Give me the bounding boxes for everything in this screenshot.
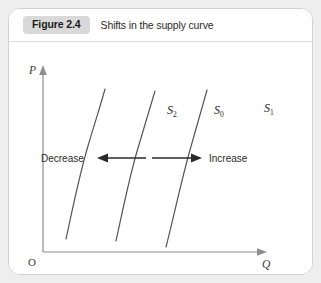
figure-number-badge: Figure 2.4: [23, 16, 90, 34]
curve-label-s0: S0: [214, 103, 224, 119]
horizontal-axis: [43, 248, 267, 256]
axis-label-quantity: Q: [262, 258, 271, 270]
figure-card: Figure 2.4 Shifts in the supply curve P …: [8, 8, 313, 275]
increase-label: Increase: [209, 153, 248, 164]
curve-label-s0-sub: 0: [220, 110, 224, 119]
decrease-arrow: [97, 154, 146, 163]
increase-arrow: [152, 154, 202, 163]
curve-label-s1-sub: 1: [270, 108, 274, 117]
origin-label: O: [28, 256, 36, 268]
supply-curve-chart: P Q O S2 S0 S1: [9, 42, 313, 275]
decrease-label: Decrease: [41, 153, 84, 164]
curve-label-s2: S2: [167, 103, 177, 119]
curve-label-s1: S1: [264, 101, 274, 117]
figure-header: Figure 2.4 Shifts in the supply curve: [9, 9, 312, 42]
chart-svg: P Q O S2 S0 S1: [9, 42, 313, 275]
axis-label-price: P: [28, 64, 36, 76]
curve-label-s2-sub: 2: [173, 110, 177, 119]
figure-title: Shifts in the supply curve: [101, 19, 214, 31]
